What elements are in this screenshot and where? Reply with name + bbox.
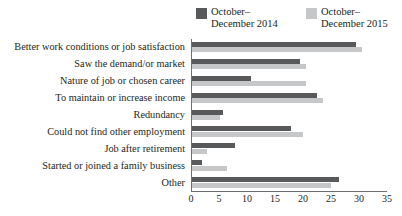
legend-label-2014: October– December 2014: [211, 6, 278, 29]
bar-group: [191, 59, 387, 70]
plot-area: [191, 39, 387, 191]
bar-group: [191, 160, 387, 171]
bar-2015: [191, 132, 303, 137]
bar-group: [191, 110, 387, 121]
bar-group: [191, 126, 387, 137]
bar-2014: [191, 177, 339, 182]
category-label: Could not find other employment: [47, 127, 185, 137]
bar-2015: [191, 47, 362, 52]
category-axis-labels: Better work conditions or job satisfacti…: [0, 39, 188, 191]
category-label: Started or joined a family business: [42, 161, 185, 171]
bar-2015: [191, 183, 331, 188]
x-tick-label: 5: [217, 193, 222, 205]
bar-2014: [191, 143, 235, 148]
x-tick-label: 35: [382, 193, 392, 205]
bar-2015: [191, 81, 306, 86]
legend-entry-2015: October– December 2015: [306, 6, 388, 29]
bar-2015: [191, 115, 220, 120]
category-label: Redundancy: [134, 110, 185, 120]
x-tick-label: 25: [326, 193, 336, 205]
bar-2015: [191, 166, 227, 171]
bar-2014: [191, 42, 356, 47]
x-axis-line: [191, 191, 387, 192]
category-label: Better work conditions or job satisfacti…: [14, 42, 185, 52]
category-label: Saw the demand/or market: [74, 59, 185, 69]
category-label: To maintain or increase income: [55, 93, 185, 103]
x-tick-label: 0: [189, 193, 194, 205]
bar-2015: [191, 98, 323, 103]
bar-2015: [191, 64, 306, 69]
bar-group: [191, 143, 387, 154]
bar-2014: [191, 110, 223, 115]
legend-label-2015: October– December 2015: [321, 6, 388, 29]
bar-2015: [191, 149, 207, 154]
x-axis-ticks: 05101520253035: [191, 193, 387, 209]
bar-group: [191, 93, 387, 104]
x-tick-label: 10: [242, 193, 252, 205]
legend-swatch-2014: [196, 8, 207, 19]
legend-swatch-2015: [306, 8, 317, 19]
bar-group: [191, 42, 387, 53]
bar-group: [191, 177, 387, 188]
category-label: Nature of job or chosen career: [60, 76, 185, 86]
bar-2014: [191, 59, 300, 64]
legend-entry-2014: October– December 2014: [196, 6, 278, 29]
bar-2014: [191, 76, 251, 81]
x-tick-label: 20: [298, 193, 308, 205]
category-label: Job after retirement: [104, 144, 185, 154]
x-tick-label: 15: [270, 193, 280, 205]
bar-2014: [191, 126, 291, 131]
chart-legend: October– December 2014 October– December…: [196, 6, 402, 36]
bar-chart: October– December 2014 October– December…: [0, 0, 402, 216]
bar-2014: [191, 93, 317, 98]
category-label: Other: [162, 178, 185, 188]
y-axis-line: [191, 39, 192, 191]
x-tick-label: 30: [354, 193, 364, 205]
bar-group: [191, 76, 387, 87]
bar-2014: [191, 160, 202, 165]
